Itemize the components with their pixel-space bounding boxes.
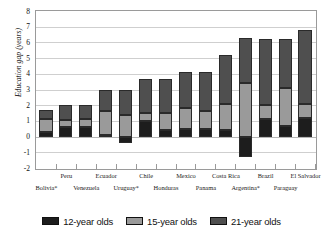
bar-segment	[298, 30, 311, 104]
x-axis-tick	[136, 164, 137, 169]
x-axis-tick	[56, 164, 57, 169]
zero-line	[36, 137, 316, 138]
bar-group	[199, 11, 212, 169]
y-axis-title: Education gap (years)	[14, 0, 23, 133]
gridline	[36, 121, 316, 122]
bar-segment	[39, 119, 52, 132]
bar-segment	[99, 111, 112, 135]
bar-group	[99, 11, 112, 169]
bar-segment	[159, 130, 172, 136]
x-axis-tick	[215, 164, 216, 169]
bar-segment	[219, 104, 232, 131]
x-axis-category-labels: Bolivia*PeruVenezuelaEcuadorUruguay*Chil…	[0, 172, 323, 198]
x-axis-tick	[116, 164, 117, 169]
bar-segment	[199, 72, 212, 111]
bar-segment	[298, 118, 311, 137]
bar-segment	[39, 110, 52, 119]
bar-segment	[59, 105, 72, 120]
bar-segment	[119, 115, 132, 137]
y-axis-tick-label: -1	[8, 149, 30, 157]
bar-segment	[139, 113, 152, 121]
x-axis-tick	[235, 164, 236, 169]
bar-group	[219, 11, 232, 169]
bar-segment	[99, 135, 112, 137]
bar-segment	[219, 130, 232, 136]
legend-item[interactable]: 15-year olds	[126, 216, 197, 227]
x-axis-tick	[275, 164, 276, 169]
legend-swatch	[126, 217, 143, 225]
legend-item[interactable]: 21-year olds	[210, 216, 281, 227]
bar-group	[39, 11, 52, 169]
bar-group	[139, 11, 152, 169]
bar-segment	[59, 127, 72, 136]
bar-group	[119, 11, 132, 169]
x-axis-tick	[76, 164, 77, 169]
bar-segment	[39, 132, 52, 137]
bar-segment	[119, 137, 132, 143]
bar-segment	[179, 72, 192, 108]
bar-segment	[159, 113, 172, 130]
bar-group	[59, 11, 72, 169]
bar-segment	[199, 129, 212, 137]
bar-segment	[239, 137, 252, 157]
bar-group	[279, 11, 292, 169]
bar-segment	[79, 105, 92, 119]
bar-segment	[259, 119, 272, 136]
bar-segment	[159, 79, 172, 114]
bar-segment	[179, 129, 192, 137]
bar-segment	[239, 38, 252, 84]
bar-group	[79, 11, 92, 169]
bar-segment	[119, 90, 132, 115]
bar-group	[259, 11, 272, 169]
legend-swatch	[42, 217, 59, 225]
x-axis-tick	[96, 164, 97, 169]
bar-segment	[99, 90, 112, 112]
x-axis-tick	[156, 164, 157, 169]
education-gap-chart: Education gap (years) 876543210-1-2 Boli…	[0, 0, 323, 233]
chart-legend: 12-year olds15-year olds21-year olds	[0, 211, 323, 231]
plot-inner	[36, 11, 316, 169]
legend-label: 21-year olds	[231, 216, 281, 227]
bar-group	[159, 11, 172, 169]
x-axis-tick	[176, 164, 177, 169]
bar-group	[239, 11, 252, 169]
gridline	[36, 58, 316, 59]
bar-segment	[139, 121, 152, 137]
bar-segment	[219, 55, 232, 104]
x-axis-label: El Salvador	[276, 173, 323, 179]
gridline	[36, 74, 316, 75]
y-axis-tick-label: -2	[8, 165, 30, 173]
bar-segment	[239, 83, 252, 136]
bar-segment	[279, 88, 292, 126]
gridline	[36, 105, 316, 106]
bar-segment	[179, 108, 192, 128]
x-axis-tick	[195, 164, 196, 169]
gridline	[36, 152, 316, 153]
bar-segment	[259, 105, 272, 119]
bar-segment	[79, 127, 92, 136]
bar-segment	[279, 126, 292, 137]
x-axis-tick	[315, 164, 316, 169]
bar-group	[298, 11, 311, 169]
x-axis-tick	[295, 164, 296, 169]
y-axis-tick-label: 0	[8, 133, 30, 141]
gridline	[36, 42, 316, 43]
legend-swatch	[210, 217, 227, 225]
legend-item[interactable]: 12-year olds	[42, 216, 113, 227]
bar-segment	[279, 39, 292, 88]
legend-label: 15-year olds	[147, 216, 197, 227]
bar-group	[179, 11, 192, 169]
x-axis-label: Paraguay	[256, 185, 316, 191]
bar-segment	[59, 120, 72, 127]
bar-segment	[298, 104, 311, 118]
bar-segment	[79, 119, 92, 127]
legend-label: 12-year olds	[63, 216, 113, 227]
bar-segment	[199, 111, 212, 128]
x-axis-tick	[255, 164, 256, 169]
gridline	[36, 27, 316, 28]
gridline	[36, 90, 316, 91]
plot-area	[35, 10, 317, 170]
bar-segment	[139, 79, 152, 114]
bar-segment	[259, 39, 272, 105]
